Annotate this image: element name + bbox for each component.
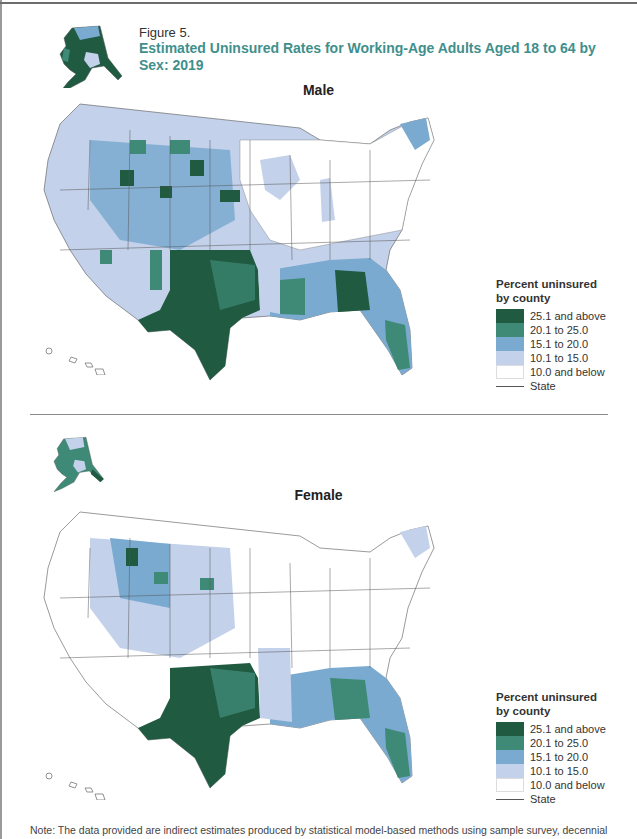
state-line-icon [496,386,524,387]
legend-item: 25.1 and above [496,722,606,736]
legend-item: 15.1 to 20.0 [496,337,606,351]
legend-item: 10.1 to 15.0 [496,764,606,778]
swatch-10-below [496,365,524,379]
swatch-10-below [496,778,524,792]
swatch-25-plus [496,722,524,736]
hawaii-map-female [35,770,115,800]
us-county-map-female [30,508,470,808]
swatch-15-20 [496,750,524,764]
legend-item: 20.1 to 25.0 [496,736,606,750]
legend-title: Percent uninsured by county [496,277,606,305]
swatch-15-20 [496,337,524,351]
page-left-edge [0,0,2,839]
legend-title: Percent uninsured by county [496,690,606,718]
figure-label: Figure 5. [139,25,190,40]
alaska-map-male [30,18,130,88]
page-top-rule [0,2,637,4]
legend-item: 10.0 and below [496,365,606,379]
legend-item: 15.1 to 20.0 [496,750,606,764]
legend-item: 25.1 and above [496,309,606,323]
state-line-icon [496,799,524,800]
legend-item: State [496,379,606,393]
panel-divider [30,414,608,415]
panel-title-female: Female [0,487,637,503]
swatch-10-15 [496,351,524,365]
footnote: Note: The data provided are indirect est… [30,824,607,836]
legend-item: 20.1 to 25.0 [496,323,606,337]
legend-item: State [496,792,606,806]
swatch-25-plus [496,309,524,323]
hawaii-map-male [35,345,115,375]
panel-title-male: Male [0,82,637,98]
alaska-map-female [30,428,110,493]
legend-male: Percent uninsured by county 25.1 and abo… [496,277,606,393]
swatch-20-25 [496,736,524,750]
figure-title: Estimated Uninsured Rates for Working-Ag… [139,40,629,74]
legend-item: 10.1 to 15.0 [496,351,606,365]
legend-female: Percent uninsured by county 25.1 and abo… [496,690,606,806]
swatch-10-15 [496,764,524,778]
swatch-20-25 [496,323,524,337]
legend-item: 10.0 and below [496,778,606,792]
